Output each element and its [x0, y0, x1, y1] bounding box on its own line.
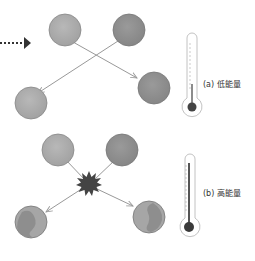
panel-b-collision: [15, 134, 165, 238]
particle-light-in: [49, 14, 81, 46]
particle-light-out: [15, 87, 47, 119]
particle-altered-out-left: [15, 206, 47, 238]
thermometer-high-icon: [180, 154, 200, 237]
particle-dark-out: [138, 72, 170, 104]
particle-light-in: [42, 134, 74, 166]
thermometer-low-icon: [182, 33, 202, 117]
particle-dark-in: [113, 14, 145, 46]
particle-altered-out-right: [133, 201, 165, 233]
particle-dark-in: [106, 134, 138, 166]
panel-a-collision: [15, 14, 170, 119]
label-low-energy: (a) 低能量: [203, 78, 241, 89]
collision-diagram: [0, 0, 255, 261]
label-high-energy: (b) 高能量: [203, 187, 241, 198]
pointer-arrow-icon: [0, 37, 31, 49]
